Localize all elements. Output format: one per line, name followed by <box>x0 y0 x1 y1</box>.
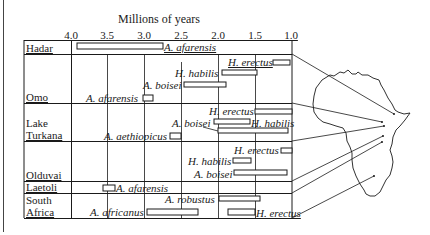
species-turkana-aethiopicus: A. aethiopicus <box>104 131 167 142</box>
species-sa-africanus: A. africanus <box>90 207 144 218</box>
site-label-hadar: Hadar <box>26 43 53 54</box>
site-label-south: South <box>26 195 52 206</box>
site-label-turkana: Turkana <box>26 130 62 141</box>
site-label-africa: Africa <box>26 207 54 218</box>
chart-plot <box>0 0 430 235</box>
species-turkana-erectus: H. erectus <box>209 106 254 117</box>
species-olduvai-boisei: A. boisei <box>194 169 233 180</box>
species-hadar-afarensis: A. afarensis <box>164 42 216 53</box>
species-laetoli-afarensis: A. afarensis <box>116 183 168 194</box>
species-olduvai-erectus: H. erectus <box>234 145 279 156</box>
species-omo-afarensis: A. afarensis <box>86 93 138 104</box>
species-omo-erectus: H. erectus <box>228 57 273 68</box>
site-label-lake: Lake <box>26 118 48 129</box>
species-turkana-boisei: A. boisei <box>172 118 211 129</box>
site-label-olduvai: Olduvai <box>26 170 61 181</box>
species-sa-erectus: H. erectus <box>256 208 301 219</box>
africa-map <box>313 70 410 196</box>
site-label-omo: Omo <box>26 92 48 103</box>
species-sa-robustus: A. robustus <box>165 194 215 205</box>
species-olduvai-habilis: H. habilis <box>188 156 231 167</box>
species-turkana-habilis: H. habilis <box>251 118 294 129</box>
species-omo-habilis: H. habilis <box>175 68 218 79</box>
species-omo-boisei: A. boisei <box>143 80 182 91</box>
site-label-laetoli: Laetoli <box>26 182 57 193</box>
